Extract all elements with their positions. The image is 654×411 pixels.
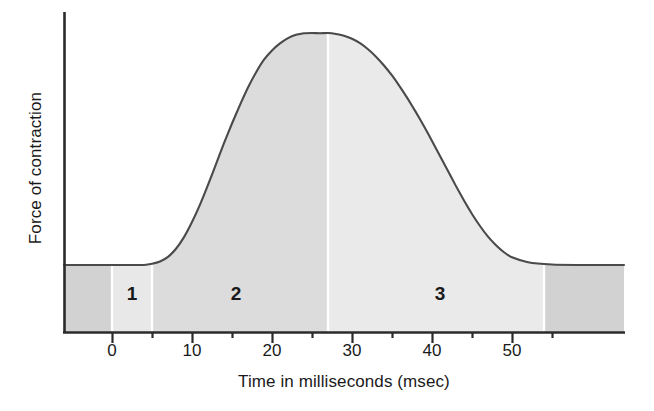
x-tick-label: 40 (410, 341, 454, 361)
force-of-contraction-chart: Force of contraction Time in millisecond… (0, 0, 654, 411)
shade-outer-left (64, 0, 112, 332)
y-axis-label: Force of contraction (26, 38, 46, 298)
phase-label-1: 1 (112, 283, 152, 305)
x-tick-label: 30 (330, 341, 374, 361)
phase-label-2: 2 (216, 283, 256, 305)
x-tick-label: 0 (90, 341, 134, 361)
x-tick-label: 20 (250, 341, 294, 361)
x-tick-label: 10 (170, 341, 214, 361)
phase-label-3: 3 (420, 283, 460, 305)
x-axis-label: Time in milliseconds (msec) (64, 372, 624, 392)
x-tick-label: 50 (490, 341, 534, 361)
shade-outer-right (544, 0, 624, 332)
